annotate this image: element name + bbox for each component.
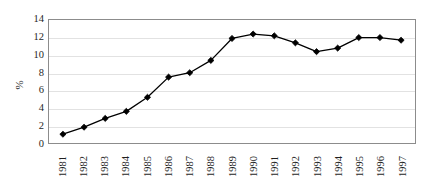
y-axis-tick-label: 0 [22,139,44,149]
data-point-marker: 1983: 2.8 [102,115,108,121]
y-axis-tick-label: 4 [22,103,44,113]
data-point-marker: 1990: 12.4 [250,31,256,37]
y-axis-tick-label: 14 [22,14,44,24]
data-point-marker: 1997: 11.7 [398,37,404,43]
data-point-marker: 1994: 10.8 [335,45,341,51]
data-point-marker: 1992: 11.4 [292,40,298,46]
data-point-marker: 1982: 1.8 [81,124,87,130]
y-axis-tick-labels: 02468101214 [22,19,44,144]
line-chart: % 02468101214 1981: 11982: 1.81983: 2.81… [0,0,432,187]
x-axis-tick-label-text: 1997 [397,156,408,177]
y-axis-tick-label: 6 [22,85,44,95]
data-point-marker: 1991: 12.2 [271,33,277,39]
data-series-line: 1981: 11982: 1.81983: 2.81984: 3.61985: … [49,20,415,143]
series-polyline [63,34,401,134]
data-point-marker: 1993: 10.4 [313,49,319,55]
data-point-marker: 1995: 12 [356,35,362,41]
data-point-marker: 1996: 12 [377,35,383,41]
y-axis-tick-label: 8 [22,68,44,78]
plot-area: 1981: 11982: 1.81983: 2.81984: 3.61985: … [48,19,416,144]
y-axis-tick-label: 10 [22,50,44,60]
y-axis-tick-label: 2 [22,121,44,131]
data-point-marker: 1987: 8 [187,70,193,76]
x-axis-tick-labels: 1981198219831984198519861987198819891990… [48,145,416,187]
data-point-marker: 1981: 1 [60,131,66,137]
y-axis-tick-label: 12 [22,32,44,42]
x-axis-tick-label: 1997 [382,145,422,185]
